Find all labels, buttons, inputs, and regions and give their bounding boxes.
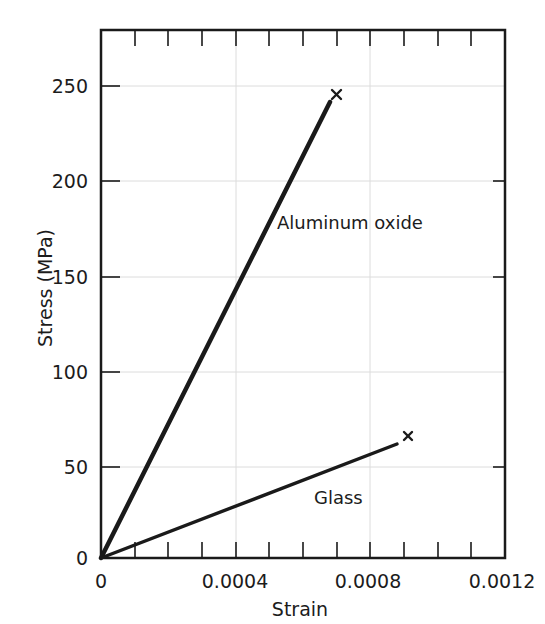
x-tick-label-0.0004: 0.0004 xyxy=(202,570,268,592)
x-axis-ticks xyxy=(135,542,471,558)
y-tick-label-200: 200 xyxy=(30,170,88,192)
right-axis-ticks xyxy=(493,181,505,467)
y-tick-label-50: 50 xyxy=(30,456,88,478)
fracture-marker-glass xyxy=(404,432,412,440)
x-tick-label-0: 0 xyxy=(95,570,107,592)
x-tick-label-0.0012: 0.0012 xyxy=(469,570,535,592)
series-annotation-glass: Glass xyxy=(314,487,363,508)
y-tick-label-0: 0 xyxy=(30,547,88,569)
x-tick-label-0.0008: 0.0008 xyxy=(335,570,401,592)
y-axis-title: Stress (MPa) xyxy=(34,208,56,368)
fracture-marker-aluminum-oxide xyxy=(332,90,341,99)
series-annotation-aluminum-oxide: Aluminum oxide xyxy=(277,212,423,233)
y-axis-ticks xyxy=(101,86,120,467)
x-axis-title: Strain xyxy=(272,598,328,620)
stress-strain-chart: 250 200 150 100 50 0 0 0.0004 0.0008 0.0… xyxy=(0,0,545,624)
series-line-aluminum-oxide xyxy=(101,102,330,558)
top-axis-ticks xyxy=(135,30,471,46)
y-tick-label-250: 250 xyxy=(30,75,88,97)
